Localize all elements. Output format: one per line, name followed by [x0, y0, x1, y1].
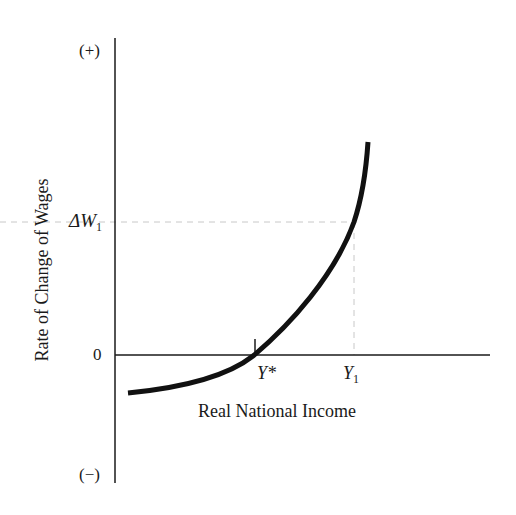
- diagram-canvas: [0, 0, 516, 515]
- delta-w-subscript: 1: [96, 220, 102, 234]
- y1-label: Y1: [343, 363, 359, 387]
- y1-subscript: 1: [353, 372, 359, 386]
- y-star-label: Y*: [257, 363, 276, 384]
- delta-w1-label: ΔW1: [69, 210, 102, 235]
- y-axis-minus-label: (−): [79, 465, 100, 485]
- x-axis-title: Real National Income: [198, 401, 356, 422]
- y-axis-title: Rate of Change of Wages: [32, 178, 53, 361]
- y1-text: Y: [343, 363, 353, 383]
- y-axis-plus-label: (+): [79, 41, 100, 61]
- delta-w-text: ΔW: [69, 210, 96, 231]
- y-axis-zero-label: 0: [93, 345, 102, 365]
